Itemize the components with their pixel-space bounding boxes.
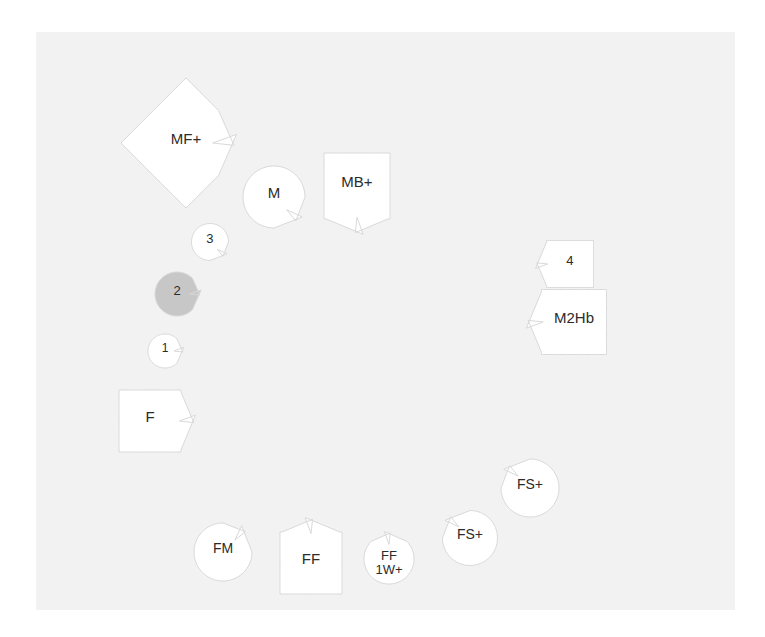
node-mf-plus[interactable] bbox=[140, 97, 232, 189]
node-one[interactable] bbox=[148, 334, 182, 368]
node-mb-plus[interactable] bbox=[324, 153, 390, 219]
node-f[interactable] bbox=[119, 390, 181, 452]
node-fs-plus-upper[interactable] bbox=[501, 459, 559, 517]
node-four[interactable] bbox=[547, 241, 594, 288]
node-fm[interactable] bbox=[194, 523, 252, 581]
node-ff[interactable] bbox=[280, 532, 342, 594]
node-m2hb[interactable] bbox=[542, 290, 607, 355]
node-fs-plus-lower[interactable] bbox=[443, 511, 498, 566]
diagram-canvas: MF+MMB+321FFMFFFF 1W+FS+FS+M2Hb4 bbox=[0, 0, 765, 637]
node-three[interactable] bbox=[192, 224, 229, 261]
node-two[interactable] bbox=[155, 272, 199, 316]
node-ff-1w-plus[interactable] bbox=[364, 534, 414, 584]
node-m[interactable] bbox=[243, 166, 305, 228]
